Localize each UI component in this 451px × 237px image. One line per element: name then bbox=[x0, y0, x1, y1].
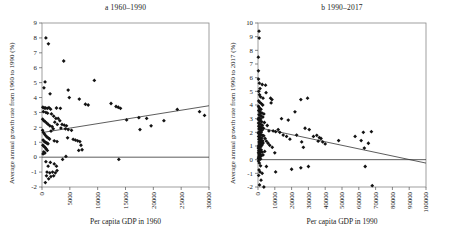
data-point bbox=[203, 114, 207, 118]
data-point bbox=[52, 174, 56, 178]
chart-b-x-axis-title: Per capita GDP in 1990 bbox=[258, 217, 426, 226]
y-tick-label: 3 bbox=[34, 109, 38, 116]
data-point bbox=[51, 170, 55, 174]
y-tick-label: 4 bbox=[34, 94, 38, 101]
data-point bbox=[273, 151, 277, 155]
data-point bbox=[312, 135, 316, 139]
y-tick-label: 5 bbox=[34, 79, 38, 86]
data-point bbox=[45, 174, 49, 178]
data-point bbox=[80, 148, 84, 152]
data-point bbox=[366, 141, 370, 145]
y-tick-label: 3 bbox=[250, 115, 254, 122]
y-tick-label: 8 bbox=[34, 34, 38, 41]
panel-b-1990-2017: b 1990–2017 Average annual growth rate f… bbox=[226, 0, 451, 237]
data-points bbox=[256, 29, 374, 189]
chart-b-plot-area: -2-1012345678910010000200003000040000500… bbox=[226, 0, 451, 237]
data-point bbox=[77, 97, 81, 101]
data-point bbox=[58, 106, 62, 110]
data-point bbox=[86, 103, 90, 107]
data-point bbox=[109, 102, 113, 106]
data-point bbox=[315, 133, 319, 137]
data-point bbox=[66, 136, 70, 140]
data-point bbox=[370, 130, 374, 134]
data-point bbox=[77, 149, 81, 153]
y-tick-label: -1 bbox=[31, 168, 37, 175]
data-point bbox=[299, 166, 303, 170]
data-point bbox=[323, 142, 327, 146]
x-tick-label: 20000 bbox=[150, 191, 157, 209]
data-point bbox=[84, 102, 88, 106]
data-point bbox=[257, 69, 261, 73]
data-point bbox=[52, 139, 56, 143]
x-tick-label: 90000 bbox=[406, 191, 413, 209]
x-tick-label: 40000 bbox=[322, 191, 329, 209]
y-tick-label: 7 bbox=[250, 60, 254, 67]
data-point bbox=[269, 101, 273, 105]
x-tick-label: 25000 bbox=[178, 191, 185, 209]
data-point bbox=[44, 36, 48, 40]
data-point bbox=[79, 143, 83, 147]
y-tick-label: 10 bbox=[246, 19, 253, 26]
data-point bbox=[256, 55, 260, 59]
data-point bbox=[265, 124, 269, 128]
x-tick-label: 10000 bbox=[94, 191, 101, 209]
y-tick-label: -2 bbox=[31, 183, 37, 190]
data-point bbox=[274, 170, 278, 174]
data-point bbox=[145, 117, 149, 121]
data-point bbox=[303, 126, 307, 130]
data-point bbox=[300, 140, 304, 144]
data-point bbox=[285, 135, 289, 139]
x-tick-label: 70000 bbox=[372, 191, 379, 209]
x-tick-label: 60000 bbox=[355, 191, 362, 209]
y-tick-label: 8 bbox=[250, 47, 254, 54]
data-point bbox=[301, 145, 305, 149]
data-point bbox=[44, 160, 48, 164]
trend-line bbox=[258, 128, 426, 164]
y-tick-label: 9 bbox=[34, 19, 38, 26]
data-point bbox=[67, 96, 71, 100]
y-tick-label: 0 bbox=[250, 156, 254, 163]
data-point bbox=[48, 161, 52, 165]
data-point bbox=[53, 120, 57, 124]
data-point bbox=[55, 106, 59, 110]
plot-frame bbox=[258, 23, 426, 187]
data-point bbox=[61, 158, 65, 162]
two-panel-scatter-figure: a 1960–1990 Average annual growth rate f… bbox=[0, 0, 451, 237]
data-point bbox=[162, 119, 166, 123]
data-point bbox=[353, 135, 357, 139]
data-point bbox=[48, 92, 52, 96]
data-point bbox=[288, 137, 292, 141]
data-point bbox=[43, 80, 47, 84]
data-point bbox=[270, 145, 274, 149]
data-point bbox=[70, 128, 74, 132]
data-point bbox=[293, 110, 297, 114]
y-tick-label: 4 bbox=[250, 101, 254, 108]
data-point bbox=[290, 167, 294, 171]
data-point bbox=[307, 165, 311, 169]
data-point bbox=[137, 116, 141, 120]
data-point bbox=[265, 165, 269, 169]
data-point bbox=[64, 155, 68, 159]
data-point bbox=[48, 171, 52, 175]
data-point bbox=[198, 110, 202, 114]
data-point bbox=[281, 133, 285, 137]
data-point bbox=[264, 91, 268, 95]
y-tick-label: -2 bbox=[247, 183, 253, 190]
x-tick-label: 10000 bbox=[271, 191, 278, 209]
x-tick-label: 5000 bbox=[66, 191, 73, 205]
data-point bbox=[46, 164, 50, 168]
y-tick-label: 7 bbox=[34, 49, 38, 56]
data-point bbox=[363, 165, 367, 169]
y-tick-label: 2 bbox=[250, 129, 254, 136]
y-tick-label: 6 bbox=[34, 64, 38, 71]
data-point bbox=[92, 79, 96, 83]
y-tick-label: -1 bbox=[247, 170, 253, 177]
x-tick-label: 50000 bbox=[338, 191, 345, 209]
x-tick-label: 30000 bbox=[205, 191, 212, 209]
data-point bbox=[66, 88, 70, 92]
data-point bbox=[55, 122, 59, 126]
data-point bbox=[262, 185, 266, 189]
data-point bbox=[337, 139, 341, 143]
x-tick-label: 80000 bbox=[389, 191, 396, 209]
x-tick-label: 100000 bbox=[422, 191, 429, 212]
